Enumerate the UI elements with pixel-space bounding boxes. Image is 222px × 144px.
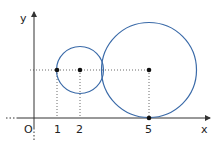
x-axis-label: x (201, 123, 208, 136)
point (78, 68, 83, 73)
origin-label: O (24, 123, 33, 136)
diagram: y x O 1 2 5 (0, 0, 222, 144)
coordinate-plane: y x O 1 2 5 (0, 0, 222, 144)
y-axis-label: y (20, 12, 27, 25)
tick-label: 5 (145, 123, 152, 136)
point (55, 68, 60, 73)
point (147, 116, 152, 121)
tick-label: 1 (54, 123, 61, 136)
tick-label: 2 (76, 123, 83, 136)
point (147, 68, 152, 73)
